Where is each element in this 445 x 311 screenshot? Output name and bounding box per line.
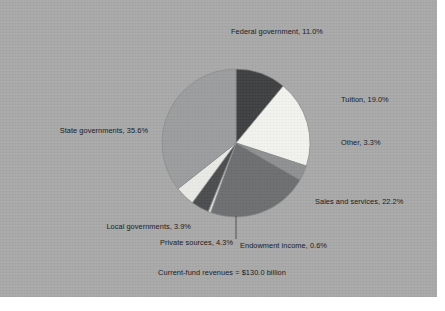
slice-label-private-sources: Private sources, 4.3% bbox=[160, 238, 233, 247]
slice-label-federal-government: Federal government, 11.0% bbox=[231, 27, 323, 36]
pie-chart-figure: Federal government, 11.0% Tuition, 19.0%… bbox=[0, 0, 445, 311]
pie-chart-graphic bbox=[0, 0, 437, 297]
chart-plate: Federal government, 11.0% Tuition, 19.0%… bbox=[0, 0, 437, 297]
slice-label-state-governments: State governments, 35.6% bbox=[60, 126, 148, 135]
slice-label-sales-and-services: Sales and services, 22.2% bbox=[315, 197, 403, 206]
chart-caption: Current-fund revenues = $130.0 billion bbox=[158, 268, 286, 277]
slice-label-endowment-income: Endowment income, 0.6% bbox=[240, 241, 327, 250]
pie-slice-group bbox=[162, 69, 310, 217]
slice-label-local-governments: Local governments, 3.9% bbox=[106, 222, 191, 231]
slice-label-other: Other, 3.3% bbox=[341, 138, 381, 147]
slice-label-tuition: Tuition, 19.0% bbox=[341, 95, 389, 104]
